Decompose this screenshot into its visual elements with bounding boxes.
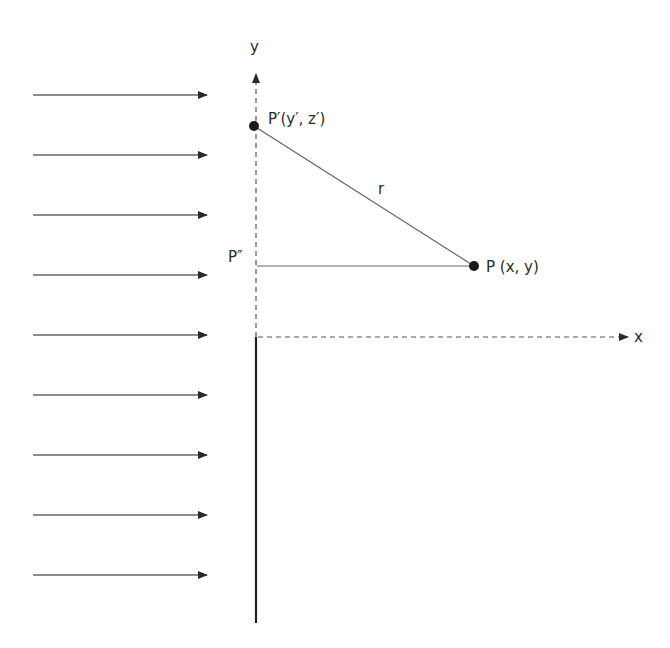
y-axis-label: y	[250, 38, 259, 56]
p-double-prime-label: P″	[228, 248, 243, 266]
incident-rays	[33, 95, 207, 575]
p-prime-label: P′(y′, z′)	[268, 110, 325, 128]
r-distance-line	[254, 126, 474, 266]
r-label: r	[378, 180, 385, 198]
p-label: P (x, y)	[486, 258, 539, 276]
diagram-canvas: y x P′(y′, z′) P (x, y) P″ r	[0, 0, 670, 648]
p-prime-point-icon	[249, 121, 259, 131]
p-point-icon	[469, 261, 479, 271]
x-axis-label: x	[634, 328, 643, 346]
